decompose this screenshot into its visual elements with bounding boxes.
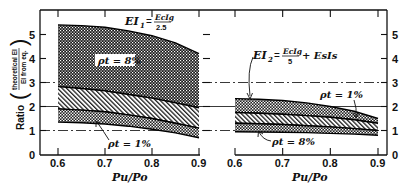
formula1-equals: = [146, 16, 152, 27]
formula2-sub: 2 [267, 55, 273, 64]
paren-right: ) [6, 39, 31, 46]
y-tick-label-right: 3 [392, 77, 398, 89]
figure: 0.60.70.80.90123450.60.70.80.9012345 Rat… [0, 0, 410, 189]
ylabel-ratio: Ratio [15, 105, 26, 130]
xlabel-right: Pu/Po [291, 171, 328, 184]
y-tick-label-left: 1 [29, 125, 35, 137]
y-tick-label-right: 5 [392, 29, 398, 41]
formula-ei1: EI 1 = EcIg 2.5 [124, 13, 174, 32]
y-tick-label-left: 4 [29, 53, 36, 65]
xlabel-left: Pu/Po [111, 171, 148, 184]
x-tick-label: 0.6 [227, 157, 242, 169]
y-tick-label-right: 2 [392, 101, 398, 113]
x-tick-label: 0.7 [97, 157, 112, 169]
ann-right-bottom-arrow [259, 132, 271, 141]
formula2-lhs: EI [252, 49, 267, 62]
formula2-equals: = [274, 50, 280, 61]
x-tick-label: 0.6 [50, 157, 65, 169]
formula1-lhs: EI [124, 15, 139, 28]
x-tick-label: 0.7 [275, 157, 290, 169]
formula2-tail: + EsIs [302, 50, 338, 61]
formula2-den: 5 [288, 57, 292, 66]
ann-left-bottom: ρt = 1% [107, 138, 152, 149]
ylabel-numerator: theoretical EI [11, 49, 18, 90]
left-panel-bands [58, 25, 199, 138]
x-tick-label: 0.8 [322, 157, 337, 169]
ann-left-top: ρt = 8% [97, 55, 142, 66]
ylabel-denominator: EI from eq. [20, 50, 28, 84]
y-axis-label: Ratio ( theoretical EI EI from eq. ) [6, 39, 31, 130]
x-tick-label: 0.9 [191, 157, 206, 169]
y-tick-label-right: 1 [392, 125, 398, 137]
formula1-num: EcIg [154, 13, 174, 22]
formula1-sub: 1 [140, 21, 145, 30]
y-tick-label-left: 3 [29, 77, 35, 89]
x-tick-label: 0.9 [370, 157, 385, 169]
y-tick-label-right: 0 [392, 149, 398, 161]
y-tick-label-left: 2 [29, 101, 35, 113]
ann-right-bottom: ρt = 8% [271, 136, 316, 147]
ann-right-top: ρt = 1% [319, 89, 364, 100]
y-tick-label-right: 4 [392, 53, 399, 65]
formula2-arrow [249, 57, 253, 96]
formula2-num: EcIg [282, 47, 302, 56]
paren-left: ( [6, 92, 31, 100]
formula1-den: 2.5 [156, 23, 166, 32]
y-tick-label-left: 0 [29, 149, 35, 161]
x-tick-label: 0.8 [144, 157, 159, 169]
chart-svg: 0.60.70.80.90123450.60.70.80.9012345 Rat… [0, 0, 410, 189]
